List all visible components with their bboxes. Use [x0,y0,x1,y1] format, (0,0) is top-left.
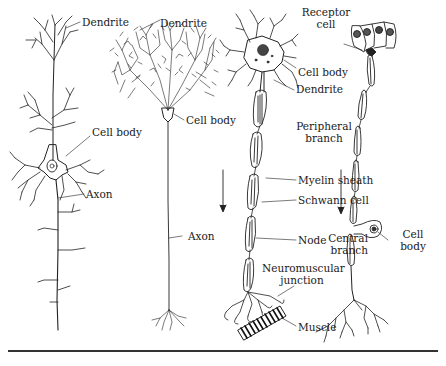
label-muscle: Muscle [298,321,336,333]
neuron-types-diagram: Dendrite Cell body Axon Dendrite Cell bo… [0,0,446,366]
pyramidal-neuron [10,15,104,330]
purkinje-neuron [110,22,219,330]
label-neuromuscular-junction: Neuromuscular junction [262,262,342,286]
label-central-branch-line2: branch [322,244,368,256]
label-central-branch: Central branch [322,232,368,256]
label-peripheral-branch: Peripheral branch [294,120,354,144]
bottom-rule-divider [8,350,438,352]
label-purkinje-cell-body: Cell body [186,114,236,126]
label-receptor-cell: Receptor cell [296,6,356,30]
label-peripheral-branch-line2: branch [294,132,354,144]
label-receptor-cell-line1: Receptor [296,6,356,18]
label-motor-cell-body: Cell body [298,66,348,78]
label-neuromuscular-junction-line1: Neuromuscular [262,262,342,274]
label-peripheral-branch-line1: Peripheral [294,120,354,132]
label-receptor-cell-line2: cell [296,18,356,30]
signal-direction-arrow-1 [220,170,226,212]
label-pyramidal-dendrite: Dendrite [82,16,129,28]
label-sensory-cell-body: Cell body [396,228,430,252]
label-central-branch-line1: Central [322,232,368,244]
label-sensory-cell-body-line2: body [396,240,430,252]
label-purkinje-axon: Axon [188,230,215,242]
label-neuromuscular-junction-line2: junction [262,274,342,286]
label-pyramidal-axon: Axon [86,188,113,200]
label-purkinje-dendrite: Dendrite [160,17,207,29]
neuron-illustration [0,0,446,366]
label-schwann-cell: Schwann cell [298,194,369,206]
label-myelin-sheath: Myelin sheath [298,174,373,186]
label-sensory-cell-body-line1: Cell [396,228,430,240]
label-pyramidal-cell-body: Cell body [92,126,142,138]
label-motor-dendrite: Dendrite [296,83,343,95]
receptor-cells [351,22,396,56]
